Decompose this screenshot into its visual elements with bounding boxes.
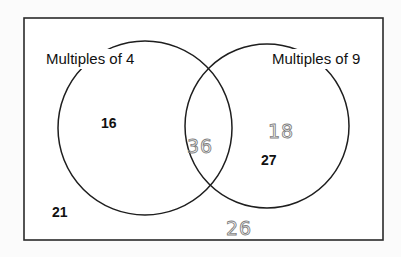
handwritten-value-18-only-multiples-of-9: 18 [268,120,294,142]
value-21-outside: 21 [52,204,68,220]
venn-diagram: Multiples of 4 Multiples of 9 16 27 21 3… [0,0,401,257]
set-label-multiples-of-4: Multiples of 4 [46,50,134,67]
set-label-multiples-of-9: Multiples of 9 [272,50,360,67]
handwritten-value-36-intersection: 36 [187,135,213,157]
value-16-only-multiples-of-4: 16 [101,115,117,131]
value-27-only-multiples-of-9: 27 [261,152,277,168]
handwritten-value-26-outside: 26 [226,217,252,239]
